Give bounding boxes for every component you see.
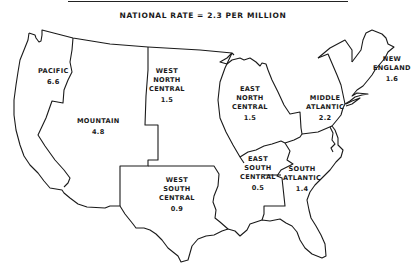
new-england-coast: [318, 40, 352, 62]
pacific-mountain-border: [38, 38, 73, 187]
region-label-new-england: NEW ENGLAND 1.6: [373, 55, 411, 84]
wsc-esc-border: [208, 166, 228, 229]
region-label-west-south-central: WEST SOUTH CENTRAL 0.9: [159, 176, 195, 214]
region-label-middle-atlantic: MIDDLE ATLANTIC 2.2: [306, 94, 344, 123]
ma-sa-border: [302, 126, 332, 134]
region-value-south-atlantic: 1.4: [283, 185, 321, 194]
region-label-east-north-central: EAST NORTH CENTRAL 1.5: [232, 85, 268, 123]
region-value-west-north-central: 1.5: [149, 96, 185, 105]
region-label-mountain: MOUNTAIN 4.8: [77, 117, 120, 137]
chesapeake-shore: [330, 127, 335, 152]
region-value-middle-atlantic: 2.2: [306, 114, 344, 123]
region-value-new-england: 1.6: [373, 75, 411, 84]
region-value-mountain: 4.8: [77, 128, 120, 137]
region-label-west-north-central: WEST NORTH CENTRAL 1.5: [149, 67, 185, 105]
region-value-east-north-central: 1.5: [232, 114, 268, 123]
us-census-divisions-map: [0, 0, 418, 271]
region-label-east-south-central: EAST SOUTH CENTRAL 0.5: [240, 155, 276, 193]
region-label-pacific: PACIFIC 6.6: [38, 67, 69, 87]
region-label-south-atlantic: SOUTH ATLANTIC 1.4: [283, 165, 321, 194]
enc-ma-border: [268, 70, 302, 143]
region-value-east-south-central: 0.5: [240, 184, 276, 193]
region-value-west-south-central: 0.9: [159, 205, 195, 214]
region-value-pacific: 6.6: [38, 78, 69, 87]
